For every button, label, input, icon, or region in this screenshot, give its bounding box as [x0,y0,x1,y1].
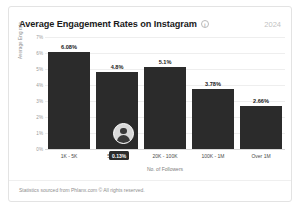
bar-rect[interactable] [48,52,90,149]
bar-rect[interactable] [192,89,234,149]
y-axis-tick-label: 6% [36,51,43,56]
bar-rect[interactable] [144,67,186,149]
x-axis-ticks: 1K - 5K5K - 20K20K - 100K100K - 1MOver 1… [45,153,285,159]
bar-value-label: 4.8% [111,64,124,70]
y-axis-tick-label: 0% [36,147,43,152]
y-axis-tick-label: 3% [36,99,43,104]
y-axis-tick-label: 1% [36,131,43,136]
avatar-icon [113,123,134,144]
bar-value-label: 5.1% [159,59,172,65]
x-axis-tick-label: 20K - 100K [144,153,186,159]
info-icon[interactable]: i [201,20,209,28]
plot-area: Average Eng rate 0%1%2%3%4%5%6%7% 6.08%4… [19,37,285,165]
avatar-body [117,135,130,144]
avatar-head [120,128,127,135]
bar-value-label: 6.08% [61,44,77,50]
card-header: Average Engagement Rates on Instagram i … [9,15,291,33]
y-axis-ticks: 0%1%2%3%4%5%6%7% [27,37,43,149]
bar-group[interactable]: 2.66% [240,37,282,149]
y-axis-tick-label: 7% [36,35,43,40]
year-label: 2024 [264,20,281,29]
bar-value-label: 2.66% [253,98,269,104]
grid-line [45,149,285,150]
bar-value-label: 3.78% [205,81,221,87]
y-axis-tick-label: 2% [36,115,43,120]
y-axis-tick-label: 4% [36,83,43,88]
x-axis-tick-label: Over 1M [240,153,282,159]
bar-group[interactable]: 6.08% [48,37,90,149]
chart-card: Average Engagement Rates on Instagram i … [8,6,292,202]
x-axis-title: No. of Followers [45,166,285,172]
hover-tooltip: 0.13% [109,151,129,160]
page-title: Average Engagement Rates on Instagram [19,19,197,29]
footer-attribution: Statistics sourced from Phlanx.com © All… [19,187,145,193]
bar-group[interactable]: 3.78% [192,37,234,149]
bar-group[interactable]: 5.1% [144,37,186,149]
bar-series: 6.08%4.8%5.1%3.78%2.66% [45,37,285,149]
y-axis-tick-label: 5% [36,67,43,72]
y-axis-title: Average Eng rate [18,0,23,59]
bar-rect[interactable] [240,106,282,149]
footer-divider [9,180,291,181]
x-axis-tick-label: 100K - 1M [192,153,234,159]
x-axis-tick-label: 1K - 5K [48,153,90,159]
